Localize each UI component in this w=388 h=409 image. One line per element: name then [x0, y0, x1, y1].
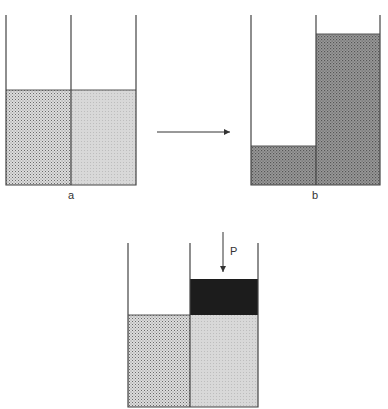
label-b: b: [312, 189, 318, 201]
solution-right-c: [190, 315, 258, 407]
label-a: a: [68, 189, 75, 201]
beaker-a: a: [6, 15, 136, 201]
solution-left-a: [6, 90, 71, 185]
solution-right-b: [316, 34, 380, 185]
beaker-b: b: [251, 15, 380, 201]
pressure-label: P: [230, 245, 237, 257]
beaker-c: P: [128, 232, 258, 407]
solution-right-a: [71, 90, 136, 185]
piston-block: [190, 279, 258, 315]
solution-left-b: [251, 146, 316, 185]
osmosis-diagram: a b P: [0, 0, 388, 409]
solution-left-c: [128, 315, 190, 407]
